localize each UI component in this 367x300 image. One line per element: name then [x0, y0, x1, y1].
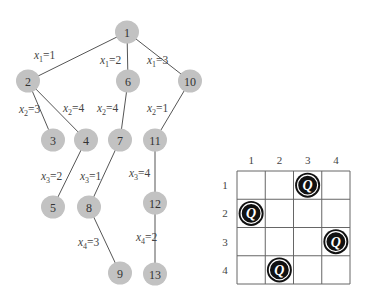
node-label: 4	[83, 134, 89, 148]
tree-node: 2	[16, 70, 40, 93]
column-label: 3	[305, 154, 311, 166]
tree-node: 1	[115, 21, 139, 44]
column-label: 4	[333, 154, 339, 166]
node-label: 6	[125, 75, 131, 89]
edge-label: x3=2	[40, 170, 63, 185]
row-label: 3	[222, 236, 228, 248]
edge-label: x1=1	[33, 49, 56, 64]
node-label: 3	[50, 134, 56, 148]
edge-label: x1=2	[99, 54, 122, 69]
four-queens-board: 12341234QQQQ	[222, 154, 350, 284]
tree-node: 12	[143, 192, 167, 215]
tree-node: 4	[74, 129, 98, 152]
row-label: 2	[222, 207, 228, 219]
board-grid	[237, 171, 350, 284]
edge-label: x4=3	[77, 236, 100, 251]
svg-text:Q: Q	[274, 263, 284, 278]
row-label: 4	[222, 264, 228, 276]
tree-node: 13	[143, 263, 167, 286]
svg-text:Q: Q	[246, 206, 256, 221]
svg-text:Q: Q	[303, 178, 313, 193]
node-label: 7	[117, 134, 123, 148]
edge-label: x3=1	[79, 170, 102, 185]
edge-label: x2=3	[18, 103, 41, 118]
edge-label: x2=1	[146, 102, 169, 117]
node-label: 1	[124, 26, 130, 40]
tree-node: 6	[116, 70, 140, 93]
edge-label: x4=2	[135, 231, 158, 246]
node-label: 8	[86, 201, 92, 215]
diagram-canvas: x1=1x1=2x1=3x2=3x2=4x2=4x2=1x3=2x3=1x3=4…	[0, 0, 367, 300]
node-label: 10	[184, 75, 196, 89]
edge-label: x2=4	[96, 102, 119, 117]
row-label: 1	[222, 179, 228, 191]
column-label: 1	[248, 154, 254, 166]
queen-icon: Q	[239, 201, 264, 226]
queen-icon: Q	[267, 257, 292, 282]
tree-node: 9	[108, 262, 132, 285]
edge-label: x3=4	[128, 167, 151, 182]
tree-node: 7	[108, 129, 132, 152]
svg-text:Q: Q	[331, 235, 341, 250]
edge-label: x2=4	[62, 102, 85, 117]
queen-icon: Q	[295, 173, 320, 198]
edge-label: x1=3	[146, 54, 169, 69]
tree-edge-labels: x1=1x1=2x1=3x2=3x2=4x2=4x2=1x3=2x3=1x3=4…	[18, 49, 169, 251]
node-label: 9	[117, 267, 123, 281]
column-label: 2	[277, 154, 283, 166]
node-label: 5	[50, 201, 56, 215]
node-label: 2	[25, 75, 31, 89]
node-label: 12	[149, 197, 161, 211]
tree-node: 10	[178, 70, 202, 93]
tree-node: 11	[143, 129, 167, 152]
tree-node: 3	[41, 129, 65, 152]
node-label: 11	[149, 134, 161, 148]
queen-icon: Q	[323, 229, 348, 254]
tree-node: 5	[41, 196, 65, 219]
tree-node: 8	[77, 196, 101, 219]
node-label: 13	[149, 268, 161, 282]
